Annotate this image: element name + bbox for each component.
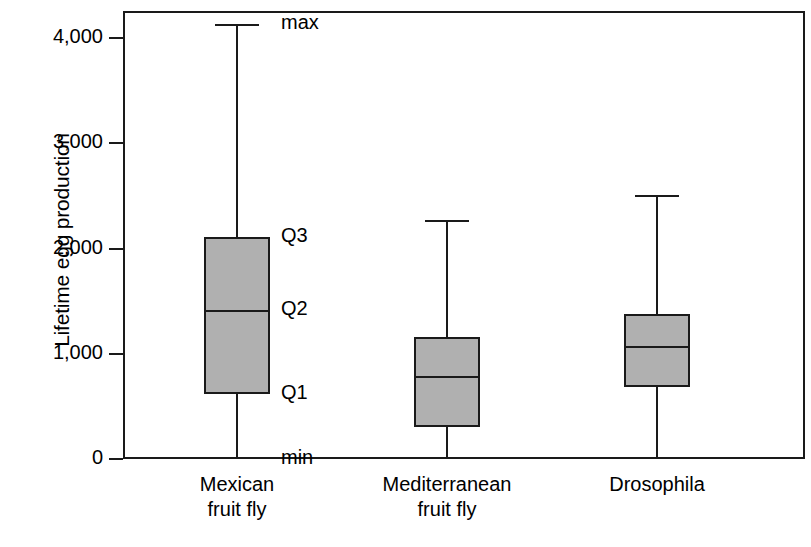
median-line [414,376,480,378]
max-whisker-cap [425,220,469,222]
median-line [204,310,270,312]
upper-whisker-line [446,220,448,337]
x-axis-category-label: Drosophila [542,472,772,497]
y-axis-tick-mark [109,37,123,39]
x-axis-category-label: Mediterraneanfruit fly [332,472,562,522]
box-annotation-q3: Q3 [281,224,308,247]
y-axis-tick-label: 0 [0,446,103,469]
x-axis-category-label: Mexicanfruit fly [122,472,352,522]
category-label-line2: fruit fly [332,497,562,522]
y-axis-tick-mark [109,142,123,144]
box-annotation-q2: Q2 [281,297,308,320]
y-axis-tick-label: 3,000 [0,130,103,153]
interquartile-box [204,237,270,394]
max-whisker-cap [215,24,259,26]
y-axis-tick-label: 4,000 [0,25,103,48]
y-axis-tick-label: 2,000 [0,236,103,259]
y-axis-tick-mark [109,353,123,355]
lower-whisker-line [446,427,448,459]
chart-canvas: Lifetime egg production 01,0002,0003,000… [0,0,811,547]
upper-whisker-line [656,195,658,314]
interquartile-box [624,314,690,387]
category-label-line1: Mexican [200,473,274,495]
upper-whisker-line [236,24,238,237]
lower-whisker-line [236,394,238,459]
y-axis-tick-mark [109,458,123,460]
y-axis-tick-mark [109,248,123,250]
y-axis-tick-label: 1,000 [0,341,103,364]
lower-whisker-line [656,387,658,459]
category-label-line1: Mediterranean [383,473,512,495]
interquartile-box [414,337,480,427]
box-annotation-q1: Q1 [281,381,308,404]
box-annotation-max: max [281,11,319,34]
box-annotation-min: min [281,446,313,469]
category-label-line1: Drosophila [609,473,705,495]
median-line [624,346,690,348]
category-label-line2: fruit fly [122,497,352,522]
max-whisker-cap [635,195,679,197]
